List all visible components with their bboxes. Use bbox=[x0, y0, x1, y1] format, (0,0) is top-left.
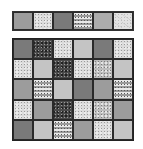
board-tile[interactable] bbox=[93, 79, 113, 99]
target-tile bbox=[73, 12, 93, 30]
board-tile[interactable] bbox=[93, 39, 113, 59]
board-tile[interactable] bbox=[113, 59, 133, 79]
board-tile[interactable] bbox=[33, 120, 53, 140]
board-tile[interactable] bbox=[73, 120, 93, 140]
board-tile[interactable] bbox=[13, 59, 33, 79]
board-tile[interactable] bbox=[33, 100, 53, 120]
board-tile[interactable] bbox=[93, 100, 113, 120]
board-tile[interactable] bbox=[53, 79, 73, 99]
target-tile-strip bbox=[12, 11, 134, 31]
board-tile[interactable] bbox=[113, 39, 133, 59]
board-tile[interactable] bbox=[13, 39, 33, 59]
board-tile[interactable] bbox=[33, 39, 53, 59]
board-tile[interactable] bbox=[53, 100, 73, 120]
board-tile[interactable] bbox=[113, 79, 133, 99]
board-tile[interactable] bbox=[73, 79, 93, 99]
board-tile[interactable] bbox=[73, 59, 93, 79]
board-tile[interactable] bbox=[33, 59, 53, 79]
target-tile bbox=[53, 12, 73, 30]
board-tile[interactable] bbox=[53, 120, 73, 140]
board-tile[interactable] bbox=[93, 120, 113, 140]
board-tile[interactable] bbox=[73, 100, 93, 120]
target-tile bbox=[113, 12, 133, 30]
board-tile[interactable] bbox=[93, 59, 113, 79]
board-tile[interactable] bbox=[13, 79, 33, 99]
board-tile[interactable] bbox=[13, 120, 33, 140]
board-tile[interactable] bbox=[33, 79, 53, 99]
target-tile bbox=[33, 12, 53, 30]
board-tile[interactable] bbox=[53, 39, 73, 59]
tile-board bbox=[12, 38, 134, 141]
target-tile bbox=[13, 12, 33, 30]
target-tile bbox=[93, 12, 113, 30]
board-tile[interactable] bbox=[73, 39, 93, 59]
board-tile[interactable] bbox=[113, 120, 133, 140]
board-tile[interactable] bbox=[113, 100, 133, 120]
board-tile[interactable] bbox=[13, 100, 33, 120]
board-tile[interactable] bbox=[53, 59, 73, 79]
